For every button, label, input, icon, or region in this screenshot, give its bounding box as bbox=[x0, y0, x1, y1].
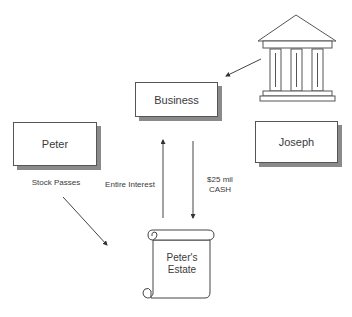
peter-label: Peter bbox=[42, 138, 68, 150]
stock-passes-label: Stock Passes bbox=[28, 178, 84, 188]
cash-label: $25 mil CASH bbox=[202, 175, 238, 195]
entire-interest-label: Entire Interest bbox=[100, 180, 160, 190]
business-label: Business bbox=[154, 94, 199, 106]
cash-type: CASH bbox=[202, 185, 238, 195]
stock-passes-arrow bbox=[63, 197, 107, 245]
bank-to-business-arrow bbox=[226, 59, 261, 76]
bank-building-icon bbox=[258, 15, 336, 101]
cash-amount: $25 mil bbox=[202, 175, 238, 185]
peter-node: Peter bbox=[13, 122, 97, 166]
joseph-label: Joseph bbox=[279, 136, 314, 148]
estate-node: Peter's Estate bbox=[156, 252, 208, 276]
estate-label-line1: Peter's bbox=[156, 252, 208, 264]
joseph-node: Joseph bbox=[255, 121, 338, 163]
business-node: Business bbox=[135, 82, 218, 117]
estate-label-line2: Estate bbox=[156, 264, 208, 276]
